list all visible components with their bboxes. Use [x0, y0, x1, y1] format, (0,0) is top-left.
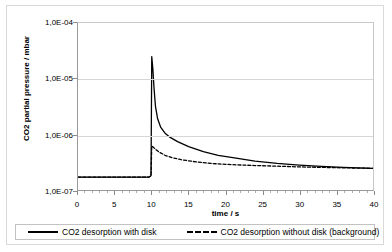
legend-item-with-disk: CO2 desorption with disk: [28, 227, 157, 237]
y-axis-tick-label: 1,0E-06: [45, 130, 73, 139]
x-axis-tick-mark: [114, 191, 115, 195]
x-axis-minor-tick: [277, 191, 278, 193]
x-axis-minor-tick: [196, 191, 197, 193]
figure-frame: CO2 partial pressure / mbar 1,0E-041,0E-…: [6, 5, 384, 245]
legend-label-with-disk: CO2 desorption with disk: [62, 227, 157, 237]
x-axis-tick-mark: [226, 191, 227, 195]
series-lines: [78, 23, 373, 190]
x-axis-tick-label: 30: [295, 200, 304, 209]
x-axis-minor-tick: [255, 191, 256, 193]
x-axis-minor-tick: [166, 191, 167, 193]
x-axis-minor-tick: [211, 191, 212, 193]
x-axis-tick-label: 15: [184, 200, 193, 209]
x-axis-minor-tick: [240, 191, 241, 193]
x-axis-minor-tick: [307, 191, 308, 193]
x-axis-tick-label: 25: [258, 200, 267, 209]
x-axis-minor-tick: [107, 191, 108, 193]
x-axis-minor-tick: [92, 191, 93, 193]
x-axis-tick-label: 5: [112, 200, 116, 209]
x-axis-minor-tick: [344, 191, 345, 193]
x-axis-minor-tick: [285, 191, 286, 193]
x-axis-minor-tick: [233, 191, 234, 193]
x-axis-tick-mark: [337, 191, 338, 195]
chart-area: CO2 partial pressure / mbar 1,0E-041,0E-…: [7, 6, 383, 202]
x-axis-minor-tick: [174, 191, 175, 193]
x-axis-minor-tick: [136, 191, 137, 193]
x-axis-minor-tick: [84, 191, 85, 193]
legend-item-without-disk: CO2 desorption without disk (background): [187, 227, 380, 237]
x-axis-minor-tick: [329, 191, 330, 193]
x-axis-tick-mark: [263, 191, 264, 195]
x-axis-minor-tick: [144, 191, 145, 193]
x-axis-minor-tick: [159, 191, 160, 193]
x-axis-minor-tick: [122, 191, 123, 193]
x-axis-tick-label: 35: [332, 200, 341, 209]
series-line: [78, 146, 373, 177]
legend-swatch-solid-line-icon: [28, 231, 58, 233]
y-axis-tick-label: 1,0E-04: [45, 18, 73, 27]
y-axis-tick-label: 1,0E-07: [45, 187, 73, 196]
x-axis-tick-label: 0: [75, 200, 79, 209]
legend-label-without-disk: CO2 desorption without disk (background): [221, 227, 380, 237]
legend-swatch-dashed-line-icon: [187, 231, 217, 233]
x-axis-minor-tick: [248, 191, 249, 193]
x-axis-tick-label: 10: [147, 200, 156, 209]
x-axis-tick-label: 40: [370, 200, 379, 209]
x-axis-tick-mark: [151, 191, 152, 195]
x-axis-minor-tick: [218, 191, 219, 193]
x-axis-minor-tick: [99, 191, 100, 193]
y-axis-tick-label: 1,0E-05: [45, 74, 73, 83]
x-axis-minor-tick: [352, 191, 353, 193]
series-line: [78, 57, 373, 178]
x-axis-minor-tick: [203, 191, 204, 193]
y-axis-tick-labels: 1,0E-041,0E-051,0E-061,0E-07: [29, 6, 77, 202]
x-axis-tick-label: 20: [221, 200, 230, 209]
x-axis-minor-tick: [181, 191, 182, 193]
x-axis-minor-tick: [359, 191, 360, 193]
x-axis-minor-tick: [270, 191, 271, 193]
gridline: [78, 136, 373, 137]
x-axis-minor-tick: [315, 191, 316, 193]
x-axis-tick-mark: [188, 191, 189, 195]
gridline: [78, 79, 373, 80]
x-axis-tick-mark: [374, 191, 375, 195]
plot-area: [77, 22, 374, 191]
x-axis-minor-tick: [129, 191, 130, 193]
x-axis-tick-mark: [300, 191, 301, 195]
x-axis-minor-tick: [367, 191, 368, 193]
x-axis-tick-mark: [77, 191, 78, 195]
chart-legend: CO2 desorption with disk CO2 desorption …: [15, 224, 375, 240]
x-axis-minor-tick: [292, 191, 293, 193]
x-axis-title: time / s: [77, 209, 374, 218]
x-axis-minor-tick: [322, 191, 323, 193]
